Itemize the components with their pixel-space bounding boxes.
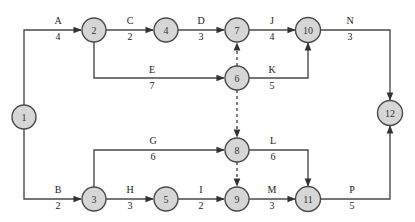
- node-9-label: 9: [235, 194, 240, 205]
- activity-E-name: E: [149, 64, 155, 75]
- activity-G-duration: 6: [151, 151, 156, 162]
- activity-labels: A 4 B 2 C 2 D 3 E 7 G 6 H 3 I 2 J 4 K 5 …: [54, 15, 355, 211]
- activity-B-duration: 2: [56, 200, 61, 211]
- node-2-label: 2: [92, 25, 97, 36]
- activity-L-name: L: [270, 135, 276, 146]
- node-8: 8: [225, 138, 249, 162]
- node-5-label: 5: [164, 194, 169, 205]
- activity-N-name: N: [346, 15, 353, 26]
- node-5: 5: [154, 187, 178, 211]
- edge-P: [321, 126, 390, 199]
- node-2: 2: [82, 18, 106, 42]
- node-6: 6: [225, 66, 249, 90]
- node-4: 4: [154, 18, 178, 42]
- activity-H-name: H: [126, 184, 133, 195]
- network-diagram: A 4 B 2 C 2 D 3 E 7 G 6 H 3 I 2 J 4 K 5 …: [0, 0, 415, 222]
- activity-E-duration: 7: [150, 80, 155, 91]
- node-11-label: 11: [303, 194, 313, 205]
- nodes: 1 2 3 4 5 6 7 8: [12, 18, 403, 212]
- node-3: 3: [82, 187, 106, 211]
- edges: [24, 30, 390, 199]
- activity-P-duration: 5: [350, 200, 355, 211]
- node-11: 11: [296, 187, 321, 212]
- activity-K-name: K: [268, 64, 276, 75]
- node-3-label: 3: [92, 194, 97, 205]
- activity-M-duration: 3: [270, 200, 275, 211]
- edge-K: [249, 43, 308, 78]
- activity-A-name: A: [54, 15, 62, 26]
- node-4-label: 4: [164, 25, 169, 36]
- activity-K-duration: 5: [270, 80, 275, 91]
- node-10-label: 10: [303, 25, 313, 36]
- node-12-label: 12: [385, 108, 395, 119]
- node-9: 9: [225, 187, 249, 211]
- edge-N: [321, 30, 390, 100]
- activity-C-name: C: [127, 15, 134, 26]
- activity-D-name: D: [197, 15, 204, 26]
- edge-A: [24, 30, 81, 105]
- activity-A-duration: 4: [56, 31, 61, 42]
- node-1-label: 1: [22, 112, 27, 123]
- activity-C-duration: 2: [128, 31, 133, 42]
- activity-I-duration: 2: [199, 200, 204, 211]
- node-1: 1: [12, 105, 36, 129]
- node-6-label: 6: [235, 73, 240, 84]
- activity-J-name: J: [270, 15, 274, 26]
- activity-H-duration: 3: [128, 200, 133, 211]
- activity-M-name: M: [268, 184, 277, 195]
- edge-E: [94, 42, 224, 78]
- edge-G: [94, 150, 224, 187]
- activity-G-name: G: [149, 135, 156, 146]
- activity-N-duration: 3: [348, 31, 353, 42]
- node-7: 7: [225, 18, 249, 42]
- activity-D-duration: 3: [199, 31, 204, 42]
- node-12: 12: [378, 101, 403, 126]
- node-10: 10: [296, 18, 321, 43]
- node-7-label: 7: [235, 25, 240, 36]
- activity-I-name: I: [199, 184, 202, 195]
- activity-B-name: B: [55, 184, 62, 195]
- edge-L: [249, 150, 308, 186]
- edge-B: [24, 129, 81, 199]
- activity-L-duration: 6: [271, 151, 276, 162]
- activity-P-name: P: [349, 184, 355, 195]
- activity-J-duration: 4: [270, 31, 275, 42]
- node-8-label: 8: [235, 145, 240, 156]
